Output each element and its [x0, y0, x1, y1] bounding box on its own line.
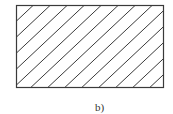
hatch-line	[31, 6, 118, 88]
hatch-line	[48, 6, 135, 88]
hatch-lines	[0, 6, 173, 88]
hatch-line	[167, 6, 173, 88]
figure-caption: b)	[95, 101, 104, 113]
hatch-line	[150, 6, 173, 88]
hatch-line	[0, 6, 84, 88]
hatch-line	[14, 6, 101, 88]
rectangle-outline	[17, 6, 164, 88]
hatch-line	[99, 6, 173, 88]
hatched-rectangle-figure	[0, 0, 173, 114]
hatch-line	[82, 6, 169, 88]
hatch-line	[65, 6, 152, 88]
hatch-line	[116, 6, 173, 88]
hatch-line	[0, 6, 50, 88]
hatch-line	[0, 6, 16, 88]
